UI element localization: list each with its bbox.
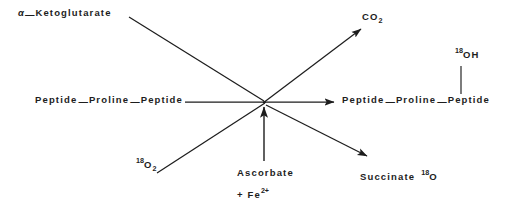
label-hydroxyl-group: 18OH [455,50,480,60]
label-alpha-ketoglutarate: α—Ketoglutarate [18,8,112,18]
substrate-dash1: — [77,96,89,107]
oxygen-isotope: 18 [136,156,144,165]
product-dash2: — [436,96,448,107]
product-dash1: — [384,96,396,107]
substrate-part1: Peptide [35,94,77,105]
ketoglutarate-name: Ketoglutarate [35,7,111,18]
iron-charge: 2+ [261,186,269,195]
arrow-co2-out [263,29,361,103]
label-ferrous-iron: + Fe2+ [237,187,269,200]
substrate-part2: Proline [89,94,129,105]
label-substrate-peptide: Peptide—Proline—Peptide [35,95,183,105]
succinate-isotope: 18 [421,168,429,177]
label-succinate: Succinate18O [360,172,438,182]
hydroxyl-isotope: 18 [455,46,463,55]
iron-text: + Fe [237,189,261,200]
label-ascorbate: Ascorbate [237,168,294,178]
arrow-succinate-out [266,105,367,156]
succinate-element: O [429,171,438,182]
hydroxyl-text: OH [463,49,480,60]
oxygen-subscript: 2 [153,164,157,173]
substrate-part3: Peptide [141,94,183,105]
arrow-oxygen-in [157,103,265,173]
arrow-ketoglutarate-in [129,17,264,101]
oxygen-element: O [144,159,153,170]
label-oxygen-18: 18O2 [136,160,157,172]
reaction-diagram: α—Ketoglutarate CO2 Peptide—Proline—Pept… [0,0,523,213]
co2-text: CO [362,11,379,22]
label-product-peptide: Peptide—Proline—Peptide [342,95,490,105]
co2-subscript: 2 [379,16,383,25]
ascorbate-text: Ascorbate [237,167,294,178]
dash-separator: — [24,9,36,20]
product-part1: Peptide [342,94,384,105]
product-part3: Peptide [448,94,490,105]
label-carbon-dioxide: CO2 [362,12,383,24]
succinate-text: Succinate [360,171,415,182]
substrate-dash2: — [129,96,141,107]
product-part2: Proline [396,94,436,105]
